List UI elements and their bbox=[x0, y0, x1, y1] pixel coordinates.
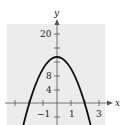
x-tick-label-3: 3 bbox=[96, 109, 102, 119]
x-axis-arrow-icon bbox=[107, 101, 113, 106]
x-tick-label-1: 1 bbox=[69, 109, 75, 119]
y-tick-label-4: 4 bbox=[46, 85, 52, 95]
x-tick-label-neg1: −1 bbox=[37, 109, 50, 119]
x-axis-label: x bbox=[115, 98, 120, 108]
y-tick-label-8: 8 bbox=[46, 71, 52, 81]
y-axis-arrow-icon bbox=[55, 19, 60, 25]
y-tick-label-20: 20 bbox=[40, 29, 52, 39]
parabola-chart: x y −1 1 3 20 8 4 bbox=[0, 0, 123, 125]
plot-background bbox=[7, 24, 105, 125]
y-axis-label: y bbox=[53, 8, 60, 18]
